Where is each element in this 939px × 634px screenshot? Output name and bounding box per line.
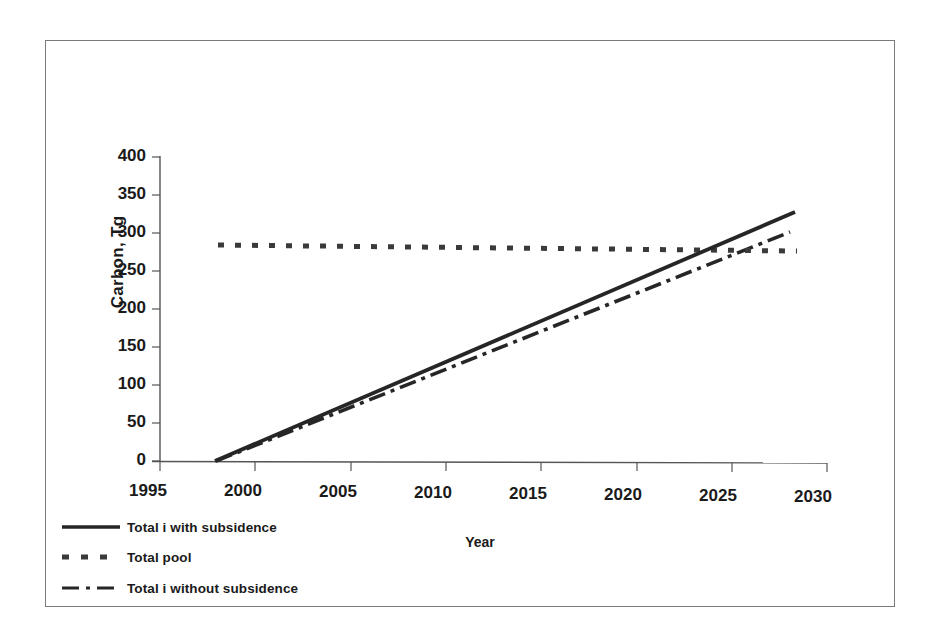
legend-swatch-solid	[62, 521, 120, 533]
series-total-i-without-subsidence	[216, 232, 790, 461]
x-tick-label-2030: 2030	[773, 487, 853, 507]
y-tick-label-350: 350	[86, 184, 146, 204]
legend-item-total-pool: Total pool	[62, 545, 192, 569]
legend-label-total-pool: Total pool	[127, 550, 192, 565]
x-tick-label-2000: 2000	[203, 481, 283, 501]
y-tick-label-0: 0	[86, 450, 146, 470]
y-tick-label-400: 400	[86, 146, 146, 166]
legend-swatch-dotted	[62, 551, 120, 563]
x-tick-label-2015: 2015	[488, 484, 568, 504]
legend-label-total-i-without-subsidence: Total i without subsidence	[127, 581, 298, 596]
x-tick-label-2020: 2020	[583, 485, 663, 505]
legend-label-total-i-with-subsidence: Total i with subsidence	[127, 520, 277, 535]
y-tick-label-200: 200	[86, 298, 146, 318]
x-tick-label-2025: 2025	[678, 486, 758, 506]
x-axis-line	[152, 462, 827, 464]
y-tick-label-100: 100	[86, 374, 146, 394]
x-tick-label-1995: 1995	[108, 481, 188, 501]
legend-item-total-i-with-subsidence: Total i with subsidence	[62, 515, 277, 539]
y-tick-label-250: 250	[86, 260, 146, 280]
x-tick-label-2010: 2010	[393, 483, 473, 503]
chart-figure: Carbon, Tg Year 400 350 300 250 200 150 …	[0, 0, 939, 634]
x-tick-label-2005: 2005	[298, 482, 378, 502]
y-axis-ticks	[152, 157, 160, 461]
y-tick-label-300: 300	[86, 222, 146, 242]
legend-swatch-dash-dot	[62, 582, 120, 594]
x-axis-title: Year	[420, 534, 540, 550]
series-total-i-with-subsidence	[215, 212, 795, 461]
y-tick-label-150: 150	[86, 336, 146, 356]
legend-item-total-i-without-subsidence: Total i without subsidence	[62, 576, 298, 600]
y-tick-label-50: 50	[86, 412, 146, 432]
